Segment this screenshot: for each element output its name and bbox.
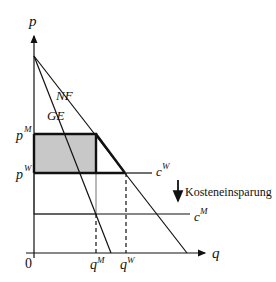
nf-label: NF [55, 88, 74, 103]
pm-label: p M [15, 124, 32, 143]
svg-text:W: W [24, 163, 33, 173]
svg-text:M: M [96, 255, 105, 265]
svg-text:p: p [15, 128, 23, 143]
x-axis-label: q [212, 245, 220, 261]
qm-label: q M [90, 255, 105, 272]
cost-saving-rectangle [34, 173, 96, 214]
svg-text:q: q [90, 257, 97, 272]
deadweight-edge [96, 134, 125, 173]
svg-text:W: W [162, 161, 171, 171]
shaded-profit-area [34, 134, 96, 173]
svg-text:p: p [15, 167, 23, 182]
ge-label: GE [47, 108, 64, 123]
cw-label: c W [156, 161, 171, 179]
svg-text:M: M [23, 124, 32, 134]
svg-text:M: M [199, 206, 208, 216]
cm-label: c M [194, 206, 208, 224]
cost-saving-annotation: Kosteneinsparung [185, 185, 272, 199]
pw-label: p W [15, 163, 33, 182]
y-axis-label: p [28, 13, 37, 29]
qw-label: q W [120, 255, 136, 272]
origin-label: 0 [25, 256, 32, 271]
svg-text:W: W [127, 255, 136, 265]
welfare-diagram: p q 0 NF GE p M p W q M q W c W c M Kost… [0, 0, 276, 282]
svg-text:q: q [120, 257, 127, 272]
